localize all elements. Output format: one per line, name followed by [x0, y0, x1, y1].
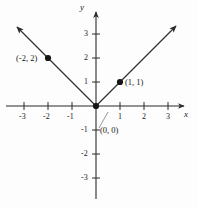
y-tick-label-2: 2: [84, 54, 88, 62]
data-point-marker-right[interactable]: [117, 79, 123, 85]
curve-right-ray: [96, 26, 176, 106]
x-tick-label-neg3: -3: [19, 113, 26, 121]
y-axis-label: y: [80, 3, 84, 12]
data-point-marker-left[interactable]: [45, 55, 51, 61]
curve-left-ray: [17, 27, 96, 106]
x-tick-label-neg2: -2: [43, 113, 50, 121]
y-tick-label-3: 3: [84, 30, 88, 38]
x-tick-label-neg1: -1: [67, 113, 74, 121]
point-label-neg2-2: (-2, 2): [16, 54, 37, 63]
graph-figure: y x -3 -2 -1 1 2 3 3 2 1 -1 -2 -3 (-2, 2…: [0, 0, 198, 207]
y-tick-label-neg1: -1: [81, 126, 88, 134]
y-tick-label-1: 1: [84, 78, 88, 86]
data-point-marker-origin[interactable]: [93, 103, 99, 109]
x-tick-label-2: 2: [142, 113, 146, 121]
point-label-origin: (0, 0): [100, 126, 118, 135]
point-label-1-1: (1, 1): [125, 78, 143, 87]
x-tick-label-1: 1: [118, 113, 122, 121]
y-tick-label-neg3: -3: [81, 174, 88, 182]
coordinate-plane: [0, 0, 198, 207]
x-tick-label-3: 3: [166, 113, 170, 121]
y-tick-label-neg2: -2: [81, 150, 88, 158]
x-axis-label: x: [184, 110, 188, 119]
